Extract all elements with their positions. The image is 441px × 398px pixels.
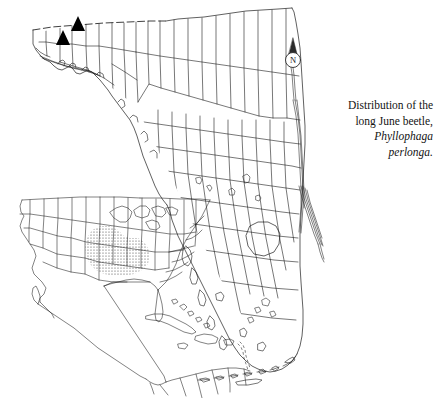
collection-record-markers bbox=[56, 16, 85, 45]
record-triangle-1 bbox=[71, 16, 85, 31]
caption-line-1: Distribution of the bbox=[305, 98, 433, 114]
gulf-coast-bays bbox=[182, 246, 266, 351]
north-arrow-label: N bbox=[290, 55, 296, 65]
atlantic-coastal-lagoon bbox=[290, 60, 324, 262]
lake-okeechobee bbox=[246, 222, 280, 256]
map-canvas: N bbox=[0, 0, 441, 398]
florida-keys bbox=[198, 356, 296, 385]
county-boundaries bbox=[33, 9, 301, 320]
figure-caption: Distribution of the long June beetle, Ph… bbox=[305, 98, 433, 160]
record-triangle-2 bbox=[56, 30, 70, 45]
caption-species: perlonga. bbox=[305, 145, 433, 161]
distribution-figure: N bbox=[0, 0, 441, 398]
caption-genus: Phyllophaga bbox=[305, 129, 433, 145]
range-shading bbox=[85, 226, 150, 276]
north-arrow: N bbox=[286, 38, 301, 68]
caption-line-2: long June beetle, bbox=[305, 114, 433, 130]
main-map-group: N bbox=[20, 8, 324, 398]
inland-lakes bbox=[196, 174, 276, 323]
north-arrow-triangle bbox=[289, 38, 297, 54]
florida-outline bbox=[33, 8, 305, 372]
